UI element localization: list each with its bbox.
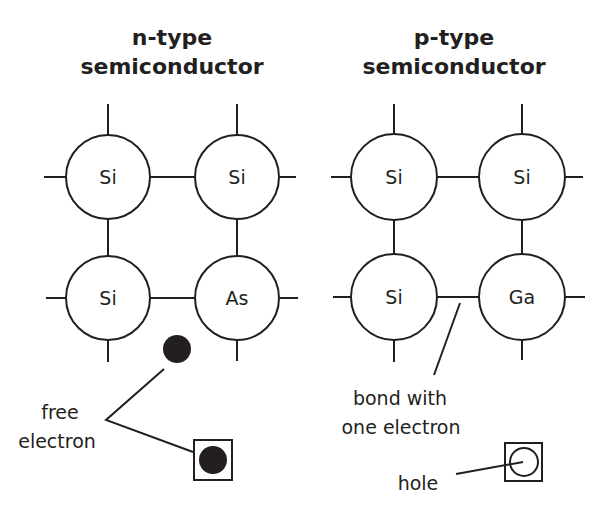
atom-label: Si xyxy=(228,166,245,188)
n-type-title-line1: n-type xyxy=(132,25,212,50)
atom-label: Si xyxy=(99,287,116,309)
hole-pointer xyxy=(456,462,523,474)
n-type-title-line2: semiconductor xyxy=(80,54,263,79)
atom-label: Si xyxy=(99,166,116,188)
bond-label-line2: one electron xyxy=(341,416,460,438)
free-electron-dot xyxy=(163,335,191,363)
atom-label: Si xyxy=(513,166,530,188)
atom-label: As xyxy=(226,287,249,309)
free-label-line2: electron xyxy=(18,430,96,452)
p-type-lattice: Si Si Si Ga xyxy=(331,104,585,362)
atom-label: Si xyxy=(385,166,402,188)
p-type-title-line1: p-type xyxy=(414,25,494,50)
p-type-title-line2: semiconductor xyxy=(362,54,545,79)
n-type-lattice: Si Si Si As xyxy=(44,104,298,362)
semiconductor-diagram: n-type semiconductor p-type semiconducto… xyxy=(0,0,612,513)
bond-label-line1: bond with xyxy=(353,387,447,409)
legend-electron-dot-icon xyxy=(199,446,227,474)
free-label-line1: free xyxy=(41,401,78,423)
hole-circle-icon xyxy=(510,448,538,476)
free-electron-pointer xyxy=(106,369,193,452)
atom-label: Si xyxy=(385,286,402,308)
atom-label: Ga xyxy=(509,286,535,308)
bond-pointer xyxy=(434,303,460,375)
hole-label: hole xyxy=(398,472,439,494)
